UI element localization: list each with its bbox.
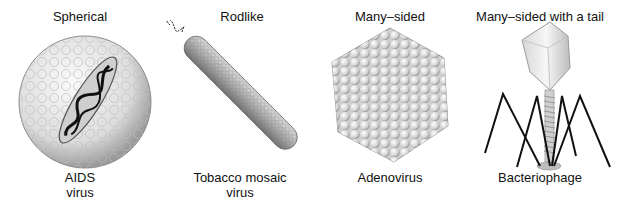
panel-many-sided-with-tail: Many–sided with a tail [470, 0, 628, 209]
panel-spherical: Spherical AIDS virus [0, 0, 160, 209]
virus-name-bacteriophage: Bacteriophage [470, 170, 610, 185]
virus-name-aids: AIDS virus [0, 170, 160, 200]
virus-name-adenovirus: Adenovirus [320, 170, 460, 185]
polyhedral-virus-icon [320, 22, 470, 172]
bacteriophage-icon [470, 20, 628, 180]
panel-many-sided: Many–sided Adenovirus [320, 0, 470, 209]
panel-rodlike: Rodlike Tobacco mosaic virus [160, 0, 320, 209]
virus-name-tobacco-mosaic: Tobacco mosaic virus [160, 170, 320, 200]
spherical-virus-icon [0, 20, 160, 170]
rodlike-virus-icon [160, 20, 320, 170]
